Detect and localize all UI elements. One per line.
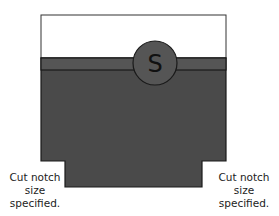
note-line: Cut notch — [209, 171, 279, 184]
note-line: Cut notch — [0, 171, 70, 184]
left-notch-note: Cut notch size specified. — [0, 171, 70, 210]
s-circle-label: S — [147, 50, 162, 78]
note-line: specified. — [209, 197, 279, 210]
right-notch-note: Cut notch size specified. — [209, 171, 279, 210]
note-line: specified. — [0, 197, 70, 210]
top-white-area — [41, 15, 226, 58]
dark-body — [41, 58, 226, 187]
note-line: size — [209, 184, 279, 197]
note-line: size — [0, 184, 70, 197]
